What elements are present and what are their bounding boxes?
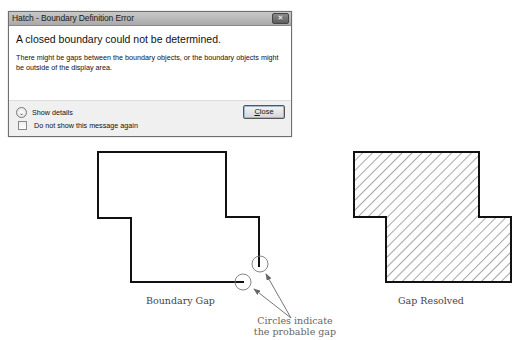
gap-resolved-caption: Gap Resolved (398, 295, 464, 306)
annotation-arrow-1 (266, 274, 291, 318)
boundary-gap-shape (98, 152, 291, 318)
boundary-diagrams (0, 0, 517, 340)
gap-annotation-line-2: the probable gap (245, 326, 345, 337)
boundary-gap-caption: Boundary Gap (146, 295, 215, 306)
gap-resolved-shape (354, 152, 511, 282)
gap-annotation-line-1: Circles indicate (245, 315, 345, 326)
annotation-arrow-2 (254, 289, 291, 318)
gap-annotation: Circles indicate the probable gap (245, 315, 345, 337)
